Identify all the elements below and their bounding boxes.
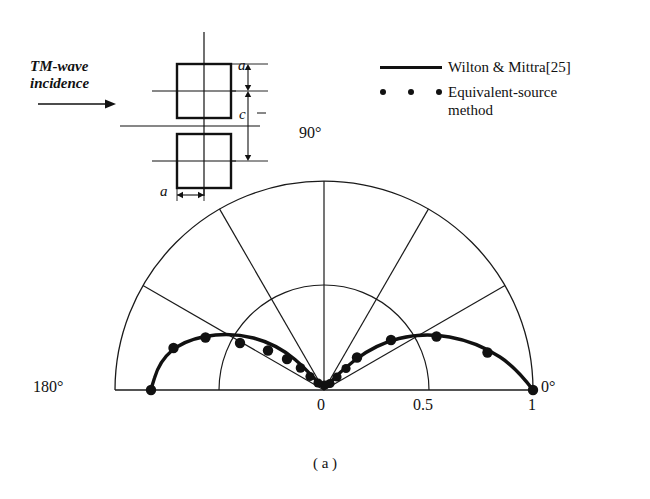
inset-dimension-a-top: [245, 64, 251, 91]
data-point: [313, 378, 322, 387]
data-point: [528, 385, 538, 395]
legend: Wilton & Mittra[25] Equivalent-source me…: [380, 58, 571, 126]
data-point: [431, 331, 441, 341]
data-point: [168, 343, 178, 353]
radial-tick-1: 1: [528, 396, 536, 414]
inset-label-a-bottom: a: [160, 183, 168, 200]
data-point: [332, 372, 341, 381]
data-point: [263, 345, 273, 355]
radial-tick-0: 0: [317, 396, 325, 414]
data-point: [341, 364, 350, 373]
inset-label-c: c: [239, 106, 246, 123]
data-point: [352, 352, 362, 362]
grid-ray-150: [143, 286, 324, 391]
right-arrow-icon: [38, 99, 116, 108]
figure-container: TM-wave incidence a c a Wilton & Mittra[…: [0, 0, 650, 499]
inset-dimension-a-bottom: [177, 188, 204, 201]
legend-line-marker: [380, 58, 448, 76]
tm-wave-incidence-label: TM-wave incidence: [30, 58, 89, 92]
inset-label-a-top: a: [238, 57, 246, 74]
axis-label-90-deg: 90°: [299, 124, 321, 142]
axis-label-180-deg: 180°: [33, 378, 63, 396]
legend-item-equivalent-source: Equivalent-source method: [380, 83, 571, 119]
figure-caption: ( a ): [0, 455, 650, 472]
grid-ray-60: [324, 209, 429, 390]
grid-ray-120: [220, 209, 325, 390]
radial-tick-0p5: 0.5: [413, 396, 433, 414]
legend-label-equivalent-source: Equivalent-source: [448, 84, 557, 100]
axis-label-0-deg: 0°: [541, 378, 555, 396]
data-point: [200, 332, 210, 342]
data-point: [386, 335, 396, 345]
legend-dots-marker: [380, 83, 448, 101]
data-point: [296, 363, 306, 373]
grid-ray-30: [324, 286, 505, 391]
tm-wave-line2: incidence: [30, 75, 89, 92]
polar-grid: [115, 181, 533, 390]
legend-label-wilton-mittra: Wilton & Mittra[25]: [448, 58, 571, 76]
legend-label-equivalent-source-line2: method: [448, 102, 493, 118]
series-equivalent-source-points: [146, 331, 538, 395]
data-point: [282, 354, 292, 364]
data-point: [305, 372, 314, 381]
data-point: [482, 347, 492, 357]
legend-item-wilton-mittra: Wilton & Mittra[25]: [380, 58, 571, 76]
data-point: [146, 385, 156, 395]
data-point: [235, 338, 245, 348]
series-wilton-mittra-curve: [151, 335, 533, 390]
tm-wave-line1: TM-wave: [30, 58, 89, 75]
